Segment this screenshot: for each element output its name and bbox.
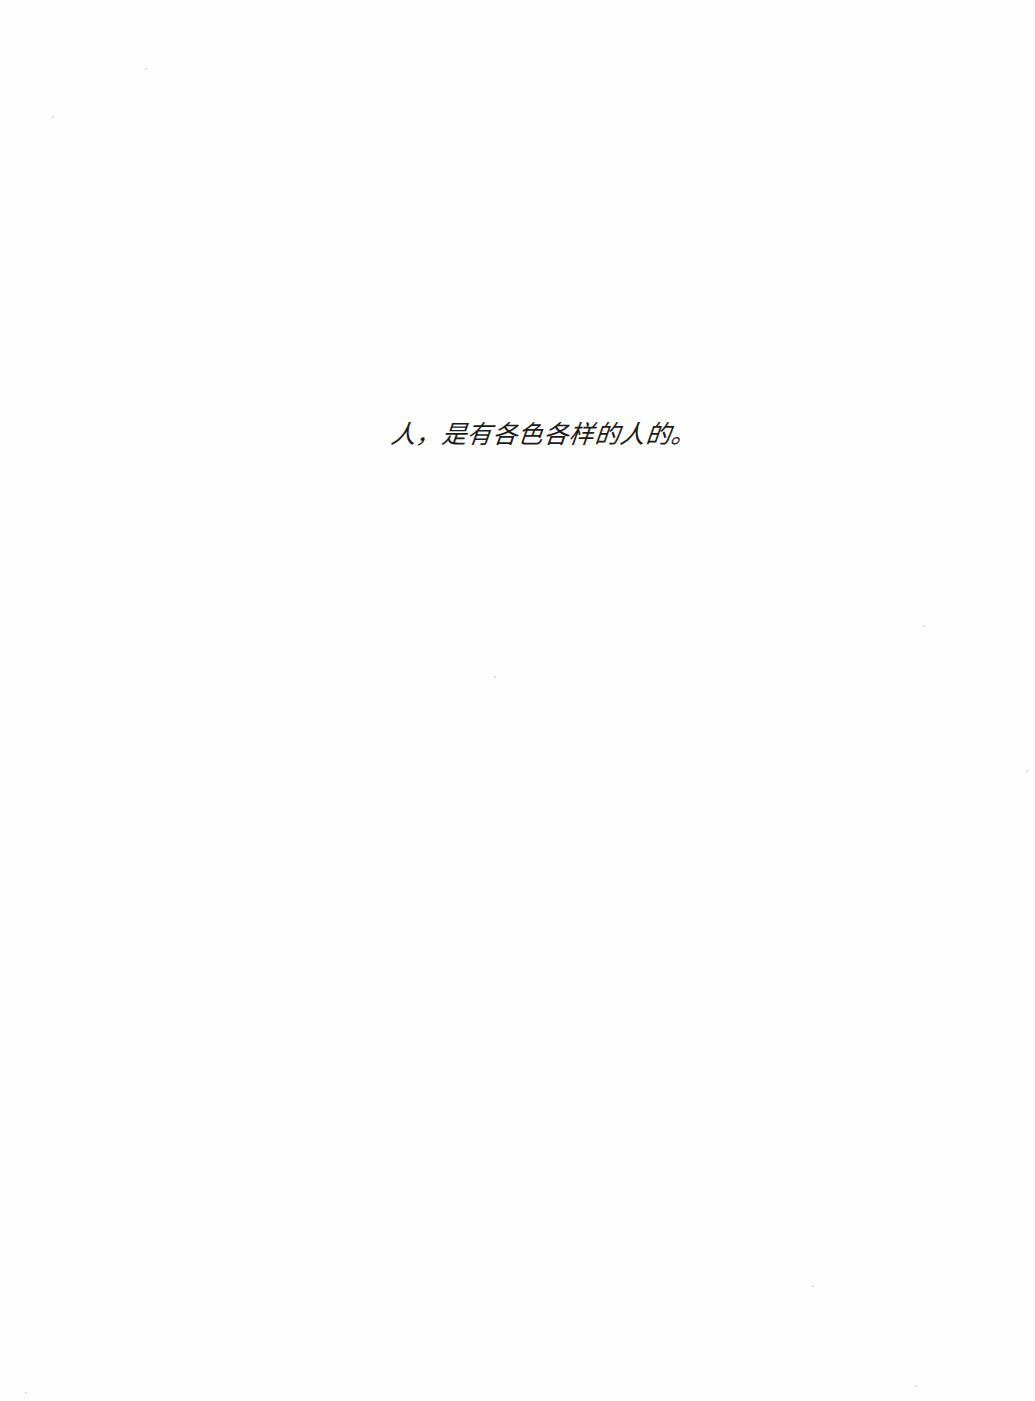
document-page: 人，是有各色各样的人的。: [0, 0, 1035, 1401]
scan-speck: [25, 1392, 27, 1394]
epigraph-text: 人，是有各色各样的人的。: [389, 419, 692, 451]
scan-speck: [915, 1385, 917, 1387]
scan-speck: [812, 1285, 814, 1287]
scan-speck: [52, 116, 54, 118]
scan-speck: [1026, 770, 1028, 772]
scan-speck: [923, 625, 925, 627]
scan-speck: [494, 676, 496, 678]
scan-speck: [145, 68, 147, 70]
